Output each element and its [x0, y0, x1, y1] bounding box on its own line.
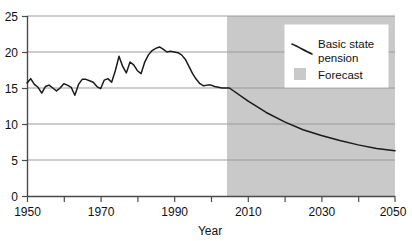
- x-tick-label-2030: 2030: [309, 205, 336, 219]
- x-tick-label-2010: 2010: [235, 205, 262, 219]
- y-tick-label-10: 10: [5, 118, 19, 132]
- x-axis-title: Year: [198, 224, 222, 238]
- legend-label-basic-state-pension-line1: Basic state: [318, 38, 374, 50]
- x-tick-label-2050: 2050: [380, 205, 407, 219]
- chart-legend: Basic state pension Forecast: [285, 25, 388, 87]
- y-tick-label-25: 25: [5, 10, 19, 24]
- legend-label-basic-state-pension-line2: pension: [318, 52, 358, 64]
- legend-forecast-swatch: [294, 68, 306, 80]
- y-tick-label-20: 20: [5, 46, 19, 60]
- y-axis-ticks: [22, 17, 27, 197]
- x-tick-label-1990: 1990: [161, 205, 188, 219]
- basic-state-pension-line-chart: 25 20 15 10 5 0 1950 1970 1990 2010 2030…: [0, 0, 412, 241]
- x-tick-label-1950: 1950: [14, 205, 41, 219]
- y-tick-label-5: 5: [11, 154, 18, 168]
- x-tick-label-1970: 1970: [88, 205, 115, 219]
- chart-container: 25 20 15 10 5 0 1950 1970 1990 2010 2030…: [0, 0, 412, 241]
- legend-label-forecast: Forecast: [318, 69, 364, 81]
- y-tick-label-15: 15: [5, 82, 19, 96]
- y-tick-label-0: 0: [11, 190, 18, 204]
